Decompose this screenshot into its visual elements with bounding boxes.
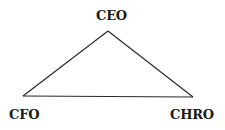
- node-label-chro: CHRO: [170, 108, 214, 121]
- node-label-cfo: CFO: [9, 108, 39, 121]
- node-label-ceo: CEO: [96, 9, 127, 22]
- edge-ceo-chro: [108, 31, 193, 97]
- edge-cfo-chro: [23, 96, 193, 97]
- org-triangle-diagram: CEO CFO CHRO: [0, 0, 225, 130]
- edge-ceo-cfo: [23, 31, 108, 96]
